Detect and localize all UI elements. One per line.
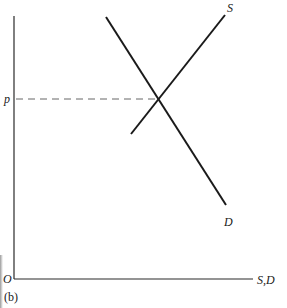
price-label: p <box>4 93 10 105</box>
origin-label: O <box>3 273 12 285</box>
demand-curve <box>106 17 226 205</box>
demand-label: D <box>224 216 233 228</box>
panel-label: (b) <box>4 291 18 303</box>
supply-demand-diagram <box>0 0 287 308</box>
supply-curve <box>131 15 225 134</box>
x-axis-label: S,D <box>257 274 275 286</box>
supply-label: S <box>227 2 233 14</box>
